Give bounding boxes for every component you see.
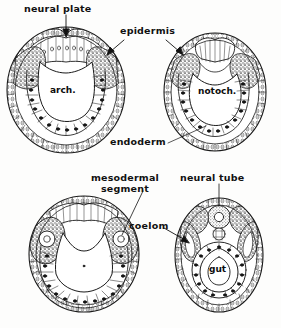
label-gut: gut: [209, 264, 226, 274]
cropped-caption-strip: [0, 318, 281, 328]
label-coelom: coelom: [129, 221, 168, 232]
embryo-neurulation-figure: neural plate epidermis endoderm mesoderm…: [0, 0, 281, 328]
label-neural-tube: neural tube: [180, 173, 244, 184]
label-arch: arch.: [50, 85, 76, 95]
label-epidermis: epidermis: [120, 26, 175, 37]
label-mesodermal-segment-line2: segment: [101, 184, 149, 195]
label-endoderm: endoderm: [110, 137, 166, 148]
label-neural-plate: neural plate: [24, 4, 91, 15]
figure-canvas: [0, 0, 281, 328]
embryo-bottom-left: [29, 196, 139, 312]
embryo-bottom-right: [175, 198, 263, 312]
label-mesodermal-segment-line1: mesodermal: [91, 173, 159, 184]
label-notoch: notoch.: [198, 86, 236, 96]
